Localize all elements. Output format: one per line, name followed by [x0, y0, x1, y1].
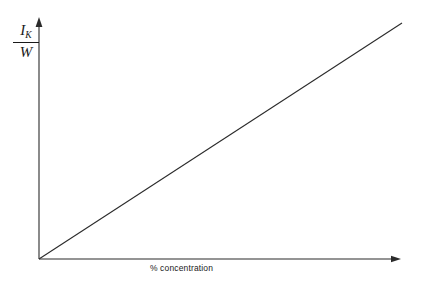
y-axis-label: IK W: [13, 23, 39, 60]
data-series-line: [39, 23, 402, 259]
fraction-bar: [13, 42, 39, 43]
y-axis-label-denominator: W: [13, 44, 39, 60]
plot-area: [0, 0, 421, 284]
calibration-curve-figure: IK W % concentration: [0, 0, 421, 284]
x-axis-arrow-icon: [391, 256, 401, 263]
y-axis-label-subscript: K: [25, 30, 31, 40]
x-axis-label: % concentration: [0, 263, 392, 273]
y-axis-label-numerator: IK: [13, 23, 39, 41]
